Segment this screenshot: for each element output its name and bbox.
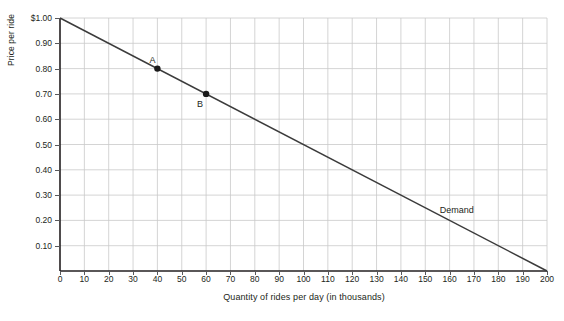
x-tick-mark xyxy=(328,271,329,275)
y-tick-label: 0.90 xyxy=(0,39,52,48)
x-tick-mark xyxy=(377,271,378,275)
x-tick-mark xyxy=(255,271,256,275)
x-tick-mark xyxy=(352,271,353,275)
y-tick-label: 0.80 xyxy=(0,65,52,74)
x-tick-mark xyxy=(206,271,207,275)
x-tick-mark xyxy=(84,271,85,275)
y-tick-mark xyxy=(55,69,60,70)
y-tick-mark xyxy=(55,220,60,221)
x-tick-mark xyxy=(401,271,402,275)
x-tick-mark xyxy=(498,271,499,275)
y-tick-label: 0.40 xyxy=(0,166,52,175)
y-tick-mark xyxy=(55,145,60,146)
plot-svg xyxy=(60,18,547,271)
y-tick-label: 0.10 xyxy=(0,242,52,251)
x-tick-mark xyxy=(523,271,524,275)
x-tick-mark xyxy=(109,271,110,275)
point-label-A: A xyxy=(149,56,155,65)
x-tick-mark xyxy=(425,271,426,275)
y-tick-label: 0.50 xyxy=(0,141,52,150)
x-tick-mark xyxy=(450,271,451,275)
y-tick-mark xyxy=(55,195,60,196)
x-tick-mark xyxy=(182,271,183,275)
y-tick-label: 0.30 xyxy=(0,191,52,200)
y-tick-mark xyxy=(55,119,60,120)
plot-area xyxy=(60,18,547,271)
x-tick-mark xyxy=(474,271,475,275)
demand-curve-chart: Price per ride 0.100.200.300.400.500.600… xyxy=(0,0,564,321)
point-label-B: B xyxy=(197,100,203,109)
x-tick-mark xyxy=(133,271,134,275)
y-tick-mark xyxy=(55,246,60,247)
y-tick-label: 0.70 xyxy=(0,90,52,99)
x-tick-mark xyxy=(157,271,158,275)
y-tick-label: 0.60 xyxy=(0,115,52,124)
x-tick-mark xyxy=(547,271,548,275)
y-tick-mark xyxy=(55,170,60,171)
x-axis-label: Quantity of rides per day (in thousands) xyxy=(60,292,548,302)
y-tick-mark xyxy=(55,94,60,95)
x-tick-mark xyxy=(279,271,280,275)
x-tick-mark xyxy=(304,271,305,275)
x-tick-label-200: 200 xyxy=(532,275,562,284)
y-tick-label: 0.20 xyxy=(0,216,52,225)
x-tick-mark xyxy=(230,271,231,275)
series-label-demand: Demand xyxy=(440,206,474,215)
y-tick-mark xyxy=(55,18,60,19)
y-tick-mark xyxy=(55,43,60,44)
x-tick-mark xyxy=(60,271,61,275)
y-tick-label: $1.00 xyxy=(0,14,52,23)
